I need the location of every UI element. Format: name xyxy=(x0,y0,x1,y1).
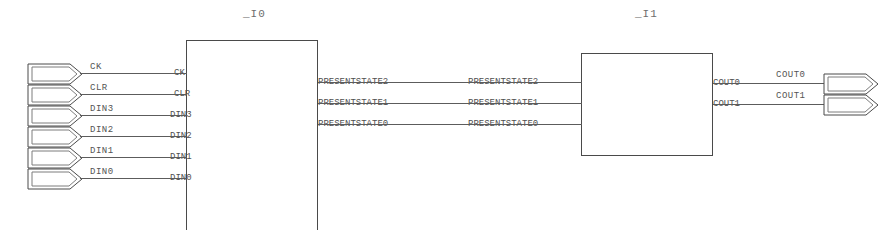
input-port-clr[interactable] xyxy=(26,84,84,106)
net-label-cout0: COUT0 xyxy=(776,71,806,80)
wire-din0[interactable] xyxy=(82,178,187,179)
input-port-din1[interactable] xyxy=(26,147,84,169)
block-i1[interactable] xyxy=(581,53,713,156)
wire-stub-din0 xyxy=(80,178,84,179)
wire-cout0[interactable] xyxy=(713,83,824,84)
wire-cout1[interactable] xyxy=(713,104,824,105)
block-i0-title: _I0 xyxy=(243,8,266,20)
wire-ck[interactable] xyxy=(82,73,187,74)
wire-stub-din3 xyxy=(80,115,84,116)
net-label-din1: DIN1 xyxy=(90,147,114,156)
pentagon-port-icon xyxy=(26,168,84,190)
pentagon-port-icon xyxy=(26,63,84,85)
pentagon-port-icon xyxy=(822,94,880,116)
pentagon-port-icon xyxy=(822,73,880,95)
net-label-clr: CLR xyxy=(90,84,108,93)
block-i1-title: _I1 xyxy=(635,8,658,20)
pentagon-port-icon xyxy=(26,147,84,169)
wire-stub-ck xyxy=(80,73,84,74)
input-port-din2[interactable] xyxy=(26,126,84,148)
net-label-din0: DIN0 xyxy=(90,168,114,177)
wire-din1[interactable] xyxy=(82,157,187,158)
output-port-cout0[interactable] xyxy=(822,73,880,95)
pentagon-port-icon xyxy=(26,84,84,106)
net-label-din2: DIN2 xyxy=(90,126,114,135)
input-port-ck[interactable] xyxy=(26,63,84,85)
wire-stub-din2 xyxy=(80,136,84,137)
pentagon-port-icon xyxy=(26,105,84,127)
wire-stub-clr xyxy=(80,94,84,95)
schematic-sheet: _I0 CK CLR DIN3 DIN2 DIN1 DIN0 PRESENTST… xyxy=(0,0,894,230)
net-label-cout1: COUT1 xyxy=(776,92,806,101)
wire-stub-din1 xyxy=(80,157,84,158)
wire-presentstate1[interactable] xyxy=(318,103,582,104)
input-port-din3[interactable] xyxy=(26,105,84,127)
wire-presentstate0[interactable] xyxy=(318,124,582,125)
input-port-din0[interactable] xyxy=(26,168,84,190)
wire-clr[interactable] xyxy=(82,94,187,95)
output-port-cout1[interactable] xyxy=(822,94,880,116)
wire-presentstate2[interactable] xyxy=(318,82,582,83)
pentagon-port-icon xyxy=(26,126,84,148)
net-label-din3: DIN3 xyxy=(90,105,114,114)
wire-din3[interactable] xyxy=(82,115,187,116)
net-label-ck: CK xyxy=(90,63,102,72)
wire-din2[interactable] xyxy=(82,136,187,137)
block-i0[interactable] xyxy=(186,40,318,230)
